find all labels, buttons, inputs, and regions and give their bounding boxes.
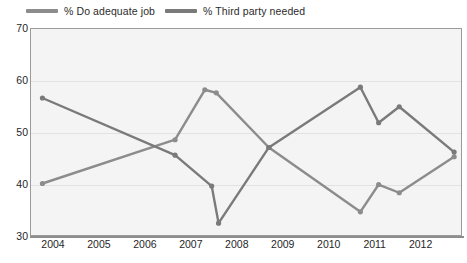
data-point <box>397 104 402 109</box>
x-axis: 200420052006200720082009201020112012 <box>30 238 462 258</box>
legend-entry-third-party-needed[interactable]: % Third party needed <box>165 5 305 17</box>
data-point <box>40 95 45 100</box>
x-tick-label-2009: 2009 <box>271 238 294 250</box>
data-point <box>358 209 363 214</box>
x-tick-label-2011: 2011 <box>363 238 386 250</box>
x-tick-label-2012: 2012 <box>409 238 432 250</box>
data-point <box>266 145 271 150</box>
plot-svg <box>31 29 461 235</box>
data-point <box>216 221 221 226</box>
data-point <box>452 154 457 159</box>
x-tick-label-2006: 2006 <box>133 238 156 250</box>
data-point <box>376 120 381 125</box>
y-tick-label-50: 50 <box>2 126 28 138</box>
data-point <box>40 181 45 186</box>
y-tick-label-30: 30 <box>2 230 28 242</box>
legend-label-do-adequate-job: % Do adequate job <box>64 5 155 17</box>
legend-label-third-party-needed: % Third party needed <box>203 5 305 17</box>
x-tick-label-2008: 2008 <box>225 238 248 250</box>
x-tick-label-2005: 2005 <box>87 238 110 250</box>
data-point <box>173 153 178 158</box>
series-2 <box>40 85 457 226</box>
data-point <box>173 137 178 142</box>
data-point <box>452 150 457 155</box>
data-point <box>376 182 381 187</box>
plot-area <box>30 28 462 236</box>
data-point <box>202 87 207 92</box>
x-tick-label-2007: 2007 <box>179 238 202 250</box>
series-line-2 <box>42 87 454 223</box>
series-line-1 <box>42 90 454 212</box>
line-chart: % Do adequate job % Third party needed 3… <box>0 0 467 263</box>
legend-swatch-do-adequate-job <box>26 9 58 13</box>
x-tick-label-2004: 2004 <box>41 238 64 250</box>
data-point <box>358 85 363 90</box>
y-tick-label-70: 70 <box>2 22 28 34</box>
legend-entry-do-adequate-job[interactable]: % Do adequate job <box>26 5 155 17</box>
y-tick-label-40: 40 <box>2 178 28 190</box>
chart-legend: % Do adequate job % Third party needed <box>26 2 305 20</box>
data-point <box>214 90 219 95</box>
legend-swatch-third-party-needed <box>165 9 197 13</box>
series-1 <box>40 87 457 214</box>
y-axis: 3040506070 <box>0 28 28 236</box>
data-point <box>209 184 214 189</box>
data-point <box>397 190 402 195</box>
x-tick-label-2010: 2010 <box>317 238 340 250</box>
y-tick-label-60: 60 <box>2 74 28 86</box>
